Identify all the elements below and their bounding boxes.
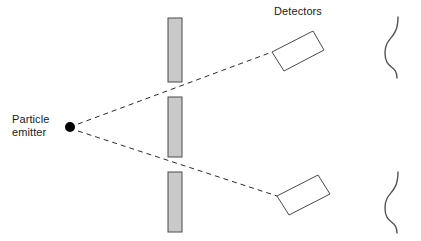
barrier-middle xyxy=(168,97,182,157)
particle-emitter-dot xyxy=(65,122,75,132)
barrier-top xyxy=(168,18,182,82)
particle-emitter-diagram: Particle emitter Detectors xyxy=(0,0,421,241)
diagram-canvas: Particle emitter Detectors xyxy=(0,0,421,241)
detectors-label: Detectors xyxy=(274,5,322,17)
emitter-label-line2: emitter xyxy=(12,126,47,138)
barrier-bottom xyxy=(168,172,182,232)
wave-upper xyxy=(385,17,398,78)
detector-upper xyxy=(272,31,324,71)
emitter-label-line1: Particle xyxy=(12,113,49,125)
detector-lower xyxy=(277,175,330,215)
wave-lower xyxy=(385,172,398,233)
